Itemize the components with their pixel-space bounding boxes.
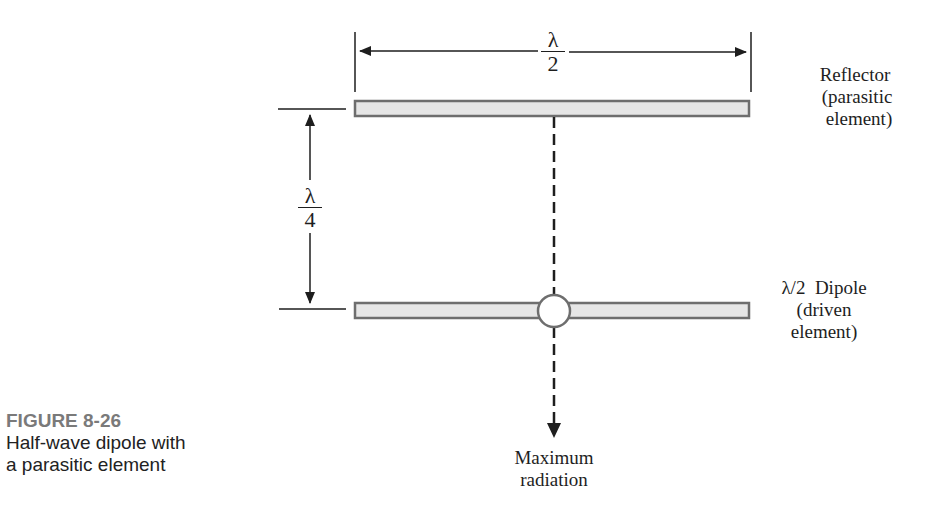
top-span-fraction: λ 2 [541,30,565,74]
dipole-label-line1: λ/2 Dipole [754,277,894,299]
diagram-canvas: λ 2 λ 4 Reflector (parasitic element) λ/… [0,0,926,516]
spacing-denominator: 4 [298,208,322,230]
top-span-numerator: λ [541,30,565,52]
figure-caption: FIGURE 8-26 Half-wave dipole with a para… [6,410,186,476]
reflector-label-line1: Reflector [770,64,920,86]
feed-point-circle [538,295,570,327]
radiation-label-line1: Maximum [494,447,614,469]
reflector-label: Reflector (parasitic element) [770,64,920,130]
caption-line-1: Half-wave dipole with [6,432,186,454]
radiation-arrow-icon [547,423,561,438]
spacing-fraction: λ 4 [298,186,322,230]
radiation-label: Maximum radiation [494,447,614,491]
reflector-element [355,101,749,116]
radiation-label-line2: radiation [494,469,614,491]
dipole-label-line3: element) [754,321,894,343]
dipole-label-line2: (driven [754,299,894,321]
caption-line-2: a parasitic element [6,454,186,476]
reflector-label-line3: element) [770,108,920,130]
figure-number: FIGURE 8-26 [6,410,186,432]
spacing-numerator: λ [298,186,322,208]
reflector-label-line2: (parasitic [770,86,920,108]
top-span-denominator: 2 [541,52,565,74]
dipole-label: λ/2 Dipole (driven element) [754,277,894,343]
